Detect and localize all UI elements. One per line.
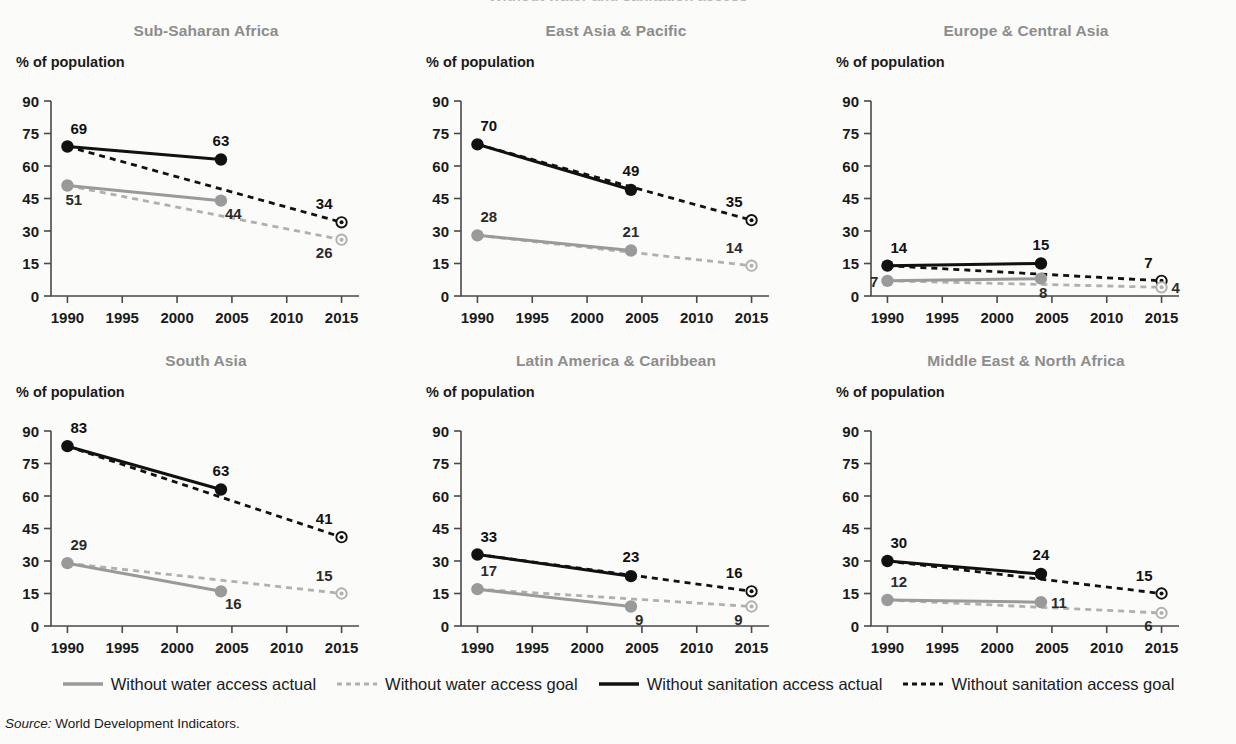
y-axis-label: % of population [836,54,945,70]
y-tick-label: 75 [22,455,39,472]
actual-data-point [625,244,637,256]
source-label: Source: [5,716,52,731]
actual-data-point [215,153,227,165]
legend-item: Without sanitation access actual [598,675,883,694]
data-value-label: 51 [65,191,82,208]
x-tick-label: 1995 [106,639,139,656]
x-tick-label: 1995 [926,309,959,326]
x-tick-label: 1990 [871,639,904,656]
actual-line [887,264,1041,266]
actual-data-point [215,483,227,495]
y-tick-label: 75 [22,125,39,142]
data-value-label: 70 [480,117,497,134]
x-tick-label: 2015 [1145,309,1178,326]
x-tick-label: 2000 [570,639,603,656]
actual-line [477,144,631,190]
x-tick-label: 2005 [1035,309,1068,326]
source-note: Source: World Development Indicators. [5,716,240,731]
data-value-label: 49 [623,162,640,179]
y-tick-label: 60 [842,488,859,505]
panel-grid: Sub-Saharan Africa% of population0153045… [0,0,1236,660]
data-value-label: 16 [225,595,242,612]
actual-data-point [1035,568,1047,580]
y-tick-label: 75 [432,125,449,142]
goal-target-centre [1160,285,1164,289]
data-value-label: 7 [1144,254,1152,271]
goal-line [67,186,341,240]
actual-data-point [881,555,893,567]
y-tick-label: 60 [22,488,39,505]
actual-data-point [1035,596,1047,608]
actual-data-point [471,229,483,241]
data-value-label: 63 [213,462,230,479]
x-tick-label: 2010 [1090,639,1123,656]
y-tick-label: 30 [22,223,39,240]
y-tick-label: 75 [842,455,859,472]
goal-target-centre [750,605,754,609]
data-series: 8363 [61,419,229,496]
y-tick-label: 90 [432,423,449,440]
data-value-label: 15 [1033,236,1050,253]
chart-panel: Europe & Central Asia% of population0153… [820,0,1232,330]
actual-data-point [881,275,893,287]
x-tick-label: 2000 [980,639,1013,656]
x-tick-label: 2015 [325,639,358,656]
x-tick-label: 2010 [270,639,303,656]
x-tick-label: 1990 [461,309,494,326]
data-series: 7049 [471,117,639,196]
data-value-label: 6 [1144,617,1152,634]
x-tick-label: 2000 [160,639,193,656]
y-tick-label: 30 [842,223,859,240]
x-tick-label: 2015 [735,639,768,656]
actual-line [477,589,631,606]
y-axis-label: % of population [836,384,945,400]
y-tick-label: 60 [432,488,449,505]
axis-lines [871,431,1179,626]
source-value: World Development Indicators. [55,716,239,731]
panel-title: Europe & Central Asia [820,22,1232,40]
x-tick-label: 2005 [215,639,248,656]
data-series: 15 [67,563,346,598]
data-value-label: 33 [480,528,497,545]
y-tick-label: 0 [441,288,449,305]
x-tick-label: 1990 [461,639,494,656]
data-value-label: 83 [70,419,87,436]
data-value-label: 28 [480,208,497,225]
data-value-label: 21 [623,223,640,240]
legend-item: Without water access actual [62,675,316,694]
chart-panel: South Asia% of population015304560759019… [0,330,412,660]
x-tick-label: 1995 [926,639,959,656]
data-value-label: 23 [623,548,640,565]
goal-target-centre [1160,592,1164,596]
data-value-label: 8 [1039,284,1047,301]
actual-data-point [471,548,483,560]
x-tick-label: 2015 [1145,639,1178,656]
goal-target-centre [340,238,344,242]
actual-data-point [625,570,637,582]
data-value-label: 24 [1033,546,1050,563]
actual-line [477,235,631,250]
panel-plot: 0153045607590199019952000200520102015741… [820,0,1232,330]
y-tick-label: 45 [432,520,449,537]
data-value-label: 30 [890,534,907,551]
line-solid-grey-icon [62,677,104,691]
x-tick-label: 2015 [325,309,358,326]
chart-panel: Sub-Saharan Africa% of population0153045… [0,0,412,330]
goal-target-centre [1160,611,1164,615]
chart-legend: Without water access actualWithout water… [0,664,1236,704]
goal-target-centre [340,592,344,596]
y-tick-label: 90 [842,93,859,110]
data-value-label: 34 [316,195,333,212]
panel-plot: 0153045607590199019952000200520102015351… [410,0,822,330]
panel-title: South Asia [0,352,412,370]
y-tick-label: 30 [842,553,859,570]
x-tick-label: 2000 [570,309,603,326]
x-tick-label: 1990 [51,639,84,656]
chart-panel: East Asia & Pacific% of population015304… [410,0,822,330]
y-tick-label: 0 [441,618,449,635]
data-series: 1415 [881,236,1049,272]
goal-target-centre [750,264,754,268]
y-tick-label: 45 [22,520,39,537]
x-tick-label: 2010 [1090,309,1123,326]
panel-title: Middle East & North Africa [820,352,1232,370]
